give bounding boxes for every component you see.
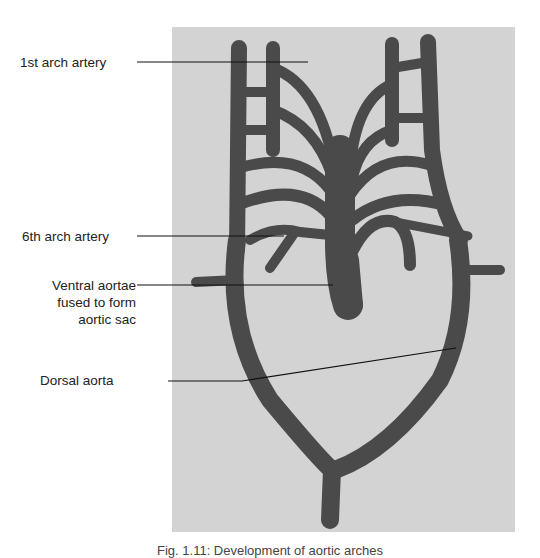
label-ventral-line-2: fused to form xyxy=(52,294,136,311)
label-ventral-line-3: aortic sac xyxy=(52,311,136,328)
label-ventral-line-1: Ventral aortae xyxy=(52,277,136,294)
label-ventral-aortae: Ventral aortae fused to form aortic sac xyxy=(52,277,136,328)
label-1st-arch-artery: 1st arch artery xyxy=(20,54,106,71)
label-6th-arch-artery: 6th arch artery xyxy=(22,228,109,245)
figure-caption: Fig. 1.11: Development of aortic arches xyxy=(0,543,540,558)
label-dorsal-aorta: Dorsal aorta xyxy=(40,372,114,389)
